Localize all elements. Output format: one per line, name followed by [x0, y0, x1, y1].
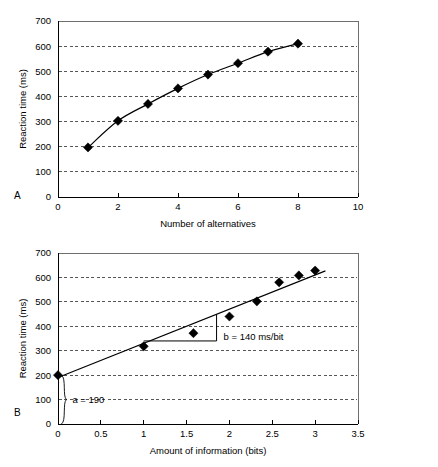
- data-point-marker: [143, 99, 152, 108]
- chart-panel-b: B 010020030040050060070000.511.522.533.5…: [0, 232, 438, 467]
- data-point-marker: [294, 271, 303, 280]
- x-axis-title: Amount of information (bits): [150, 445, 267, 456]
- x-tick-label: 0.5: [94, 428, 107, 439]
- y-tick-label: 300: [35, 345, 51, 356]
- y-tick-label: 500: [35, 66, 51, 77]
- x-tick-label: 0: [55, 201, 60, 212]
- data-point-marker: [53, 371, 62, 380]
- x-tick-label: 2: [227, 428, 232, 439]
- y-tick-label: 300: [35, 116, 51, 127]
- y-tick-label: 100: [35, 394, 51, 405]
- data-point-marker: [225, 312, 234, 321]
- x-tick-label: 3.5: [351, 428, 364, 439]
- y-tick-label: 0: [46, 418, 51, 429]
- x-tick-label: 1: [141, 428, 146, 439]
- figure-reaction-time: A 01002003004005006007000246810Number of…: [0, 0, 438, 467]
- data-point-marker: [252, 297, 261, 306]
- y-tick-label: 400: [35, 91, 51, 102]
- y-tick-label: 100: [35, 166, 51, 177]
- y-tick-label: 200: [35, 370, 51, 381]
- y-tick-label: 400: [35, 321, 51, 332]
- data-point-marker: [293, 39, 302, 48]
- y-tick-label: 600: [35, 272, 51, 283]
- plot-frame: [58, 21, 358, 197]
- data-series-line: [88, 44, 298, 148]
- x-tick-label: 6: [235, 201, 240, 212]
- x-tick-label: 3: [312, 428, 317, 439]
- y-tick-label: 600: [35, 41, 51, 52]
- y-tick-label: 0: [46, 191, 51, 202]
- intercept-annotation-label: a = 190: [72, 394, 104, 405]
- y-axis-title: Reaction time (ms): [17, 299, 28, 379]
- y-tick-label: 200: [35, 141, 51, 152]
- x-tick-label: 0: [55, 428, 60, 439]
- x-tick-label: 2: [115, 201, 120, 212]
- y-axis-title: Reaction time (ms): [17, 69, 28, 149]
- fit-line: [58, 271, 325, 378]
- slope-annotation-label: b = 140 ms/bit: [224, 331, 284, 342]
- panel-label-a: A: [14, 190, 21, 201]
- y-tick-label: 700: [35, 247, 51, 258]
- chart-b-canvas: 010020030040050060070000.511.522.533.5Am…: [0, 232, 438, 467]
- data-point-marker: [275, 278, 284, 287]
- y-tick-label: 700: [35, 15, 51, 26]
- chart-panel-a: A 01002003004005006007000246810Number of…: [0, 0, 438, 232]
- x-tick-label: 1.5: [180, 428, 193, 439]
- data-point-marker: [233, 59, 242, 68]
- y-tick-label: 500: [35, 296, 51, 307]
- x-axis-title: Number of alternatives: [160, 218, 256, 229]
- x-tick-label: 10: [353, 201, 364, 212]
- data-point-marker: [139, 342, 148, 351]
- x-tick-label: 2.5: [266, 428, 279, 439]
- data-point-marker: [263, 47, 272, 56]
- data-point-marker: [189, 329, 198, 338]
- x-tick-label: 8: [295, 201, 300, 212]
- data-point-marker: [173, 84, 182, 93]
- chart-a-canvas: 01002003004005006007000246810Number of a…: [0, 0, 438, 232]
- x-tick-label: 4: [175, 201, 180, 212]
- panel-label-b: B: [14, 407, 21, 418]
